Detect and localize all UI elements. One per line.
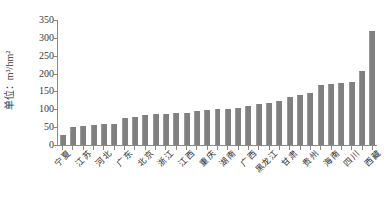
bar: [225, 109, 231, 145]
y-axis-tick-mark: [53, 56, 57, 57]
bar-chart: 单位：m³/hm² 050100150200250300350 宁夏江苏河北广东…: [0, 0, 390, 203]
y-axis-tick-mark: [53, 20, 57, 21]
bar: [204, 110, 210, 145]
x-axis-tick-labels: 宁夏江苏河北广东北京浙江江西重庆湖南广西黑龙江甘肃贵州海南四川西藏: [57, 149, 390, 203]
bar: [245, 106, 251, 145]
bar: [91, 125, 97, 145]
bar: [276, 101, 282, 145]
bar: [256, 104, 262, 145]
bar: [194, 111, 200, 145]
y-axis-tick-labels: 050100150200250300350: [18, 15, 54, 146]
bar: [111, 124, 117, 145]
bar: [287, 97, 293, 145]
bar: [359, 71, 365, 145]
bar: [163, 114, 169, 145]
y-axis-tick-mark: [53, 109, 57, 110]
bar: [266, 103, 272, 145]
y-axis-tick-mark: [53, 91, 57, 92]
bars-layer: [57, 20, 377, 145]
y-axis-tick-label: 300: [20, 33, 54, 43]
y-axis-tick-mark: [53, 38, 57, 39]
bar: [369, 31, 375, 145]
y-axis-tick-label: 350: [20, 15, 54, 25]
y-axis-title-text: 单位：m³/hm²: [2, 50, 17, 109]
y-axis-tick-mark: [53, 127, 57, 128]
bar: [328, 84, 334, 145]
bar: [307, 93, 313, 145]
bar: [297, 95, 303, 145]
bar: [60, 135, 66, 145]
bar: [349, 82, 355, 145]
y-axis-title: 单位：m³/hm²: [0, 14, 18, 146]
bar: [142, 115, 148, 145]
y-axis-tick-label: 150: [20, 86, 54, 96]
bar: [70, 127, 76, 145]
y-axis-tick-label: 50: [20, 122, 54, 132]
bar: [132, 117, 138, 145]
bar: [318, 85, 324, 145]
y-axis-tick-label: 0: [20, 140, 54, 150]
y-axis-tick-mark: [53, 74, 57, 75]
plot-area: [57, 20, 377, 145]
y-axis-tick-label: 200: [20, 69, 54, 79]
bar: [184, 113, 190, 145]
y-axis-tick-label: 250: [20, 51, 54, 61]
y-axis-tick-label: 100: [20, 104, 54, 114]
y-axis-tick-mark: [53, 145, 57, 146]
bar: [215, 109, 221, 145]
bar: [80, 126, 86, 145]
bar: [101, 124, 107, 145]
bar: [153, 114, 159, 145]
bar: [338, 83, 344, 146]
bar: [235, 108, 241, 145]
bar: [122, 118, 128, 145]
bar: [173, 113, 179, 145]
